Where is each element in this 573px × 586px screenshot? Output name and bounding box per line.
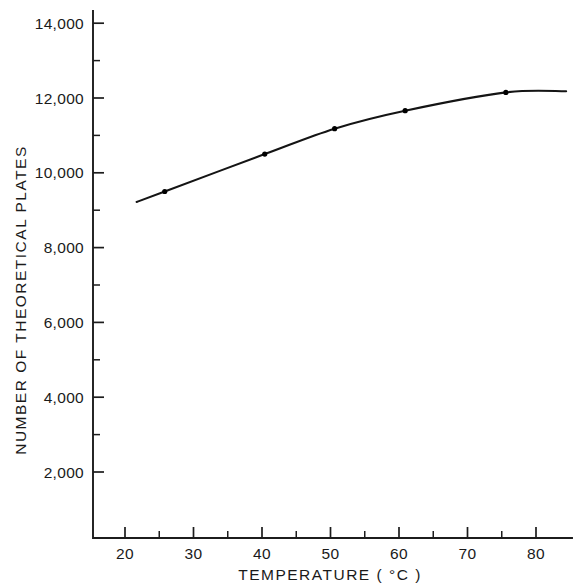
y-tick-label: 12,000 xyxy=(35,90,84,107)
x-axis-tick-labels: 20304050607080 xyxy=(116,545,545,562)
y-axis-tick-labels: 2,0004,0006,0008,00010,00012,00014,000 xyxy=(35,15,84,481)
data-point-marker xyxy=(503,90,508,95)
y-tick-label: 8,000 xyxy=(44,239,84,256)
x-tick-label: 30 xyxy=(185,545,203,562)
x-axis-ticks xyxy=(125,527,536,538)
chart-plot-area: NUMBER OF THEORETICAL PLATES TEMPERATURE… xyxy=(0,0,573,586)
x-tick-label: 50 xyxy=(322,545,340,562)
x-tick-label: 70 xyxy=(459,545,477,562)
data-point-marker xyxy=(403,108,408,113)
chart-container: NUMBER OF THEORETICAL PLATES TEMPERATURE… xyxy=(0,0,573,586)
data-series-markers xyxy=(162,90,508,194)
axis-lines xyxy=(93,11,572,538)
y-axis-ticks xyxy=(93,23,104,472)
data-series-line xyxy=(137,91,567,202)
y-tick-label: 4,000 xyxy=(44,389,84,406)
data-point-marker xyxy=(162,189,167,194)
x-tick-label: 80 xyxy=(527,545,545,562)
x-tick-label: 60 xyxy=(390,545,408,562)
y-tick-label: 10,000 xyxy=(35,164,84,181)
y-tick-label: 2,000 xyxy=(44,464,84,481)
y-tick-label: 14,000 xyxy=(35,15,84,32)
data-point-marker xyxy=(262,152,267,157)
x-tick-label: 40 xyxy=(253,545,271,562)
y-tick-label: 6,000 xyxy=(44,314,84,331)
x-axis-title: TEMPERATURE ( °C ) xyxy=(238,566,422,583)
x-tick-label: 20 xyxy=(116,545,134,562)
data-point-marker xyxy=(332,126,337,131)
y-axis-title: NUMBER OF THEORETICAL PLATES xyxy=(12,145,29,455)
